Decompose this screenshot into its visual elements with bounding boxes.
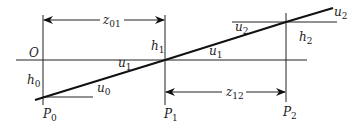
p1-label: P1 (163, 107, 178, 123)
z12-label: z12 (225, 85, 244, 101)
u1-right-label: u1 (209, 44, 222, 60)
z01-label: z01 (102, 13, 121, 29)
u1-left-label: u1 (118, 56, 131, 72)
u2-end-label: u2 (334, 5, 347, 21)
ray-segment-1 (165, 22, 286, 60)
u0-label: u0 (97, 81, 111, 97)
h0-label: h0 (27, 73, 41, 89)
ray-segment-2 (286, 8, 333, 22)
p0-label: P0 (42, 107, 57, 123)
p2-label: P2 (282, 105, 297, 121)
h2-label: h2 (299, 30, 312, 46)
origin-label: O (29, 46, 39, 60)
h1-label: h1 (151, 39, 164, 55)
ray-trace-diagram: O z01 z12 h0 h1 h2 u0 u1 u1 u2 u2 P0 P1 … (0, 0, 362, 125)
